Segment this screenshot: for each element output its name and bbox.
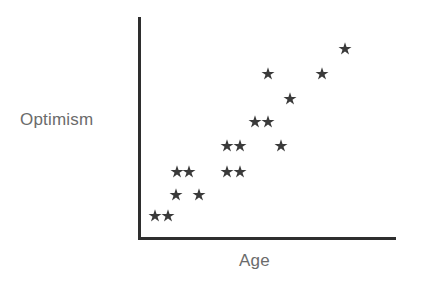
data-point-marker [168,187,184,203]
y-axis-line [138,17,141,240]
data-point-marker [314,66,330,82]
data-point-marker [282,91,298,107]
data-point-marker [337,41,353,57]
data-point-marker [232,164,248,180]
x-axis-label: Age [239,251,270,271]
y-axis-label: Optimism [20,110,93,130]
scatter-plot-figure: Optimism Age [0,0,423,282]
data-point-marker [181,164,197,180]
data-point-marker [232,138,248,154]
plot-area [0,0,423,282]
x-axis-line [138,237,396,240]
data-point-marker [191,187,207,203]
data-point-marker [260,66,276,82]
data-point-marker [260,114,276,130]
data-point-marker [273,138,289,154]
data-point-marker [160,208,176,224]
